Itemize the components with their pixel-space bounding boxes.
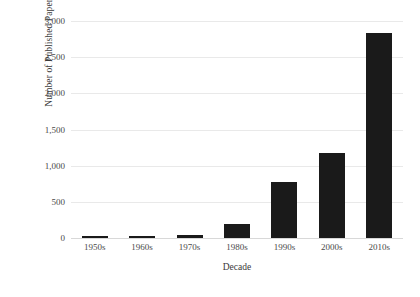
bar-group: 1990s — [261, 21, 308, 238]
bar-group: 1980s — [213, 21, 260, 238]
bar — [177, 235, 203, 238]
y-axis-tick-label: 3,000 — [45, 16, 65, 26]
plot-area: 05001,0001,5002,0002,5003,000 1950s1960s… — [71, 21, 403, 238]
bar-group: 2000s — [308, 21, 355, 238]
bar — [224, 224, 250, 238]
x-axis-tick-label: 1970s — [179, 242, 201, 252]
bar — [366, 33, 392, 238]
bar-group: 1960s — [118, 21, 165, 238]
y-axis-tick-label: 1,500 — [45, 125, 65, 135]
y-axis-tick-label: 500 — [52, 197, 66, 207]
bar-series: 1950s1960s1970s1980s1990s2000s2010s — [71, 21, 403, 238]
y-axis-tick-label: 2,500 — [45, 52, 65, 62]
bar-group: 1950s — [71, 21, 118, 238]
bar-chart-figure: Number of Published Papers 05001,0001,50… — [0, 0, 420, 297]
x-axis-tick-label: 2000s — [321, 242, 343, 252]
bar — [271, 182, 297, 238]
x-axis-tick-label: 1950s — [84, 242, 106, 252]
bar-group: 2010s — [356, 21, 403, 238]
bar — [82, 236, 108, 238]
x-axis-tick-label: 2010s — [369, 242, 391, 252]
x-axis-tick-label: 1980s — [226, 242, 248, 252]
gridline — [71, 238, 403, 239]
bar — [129, 236, 155, 238]
y-axis-tick-label: 1,000 — [45, 161, 65, 171]
y-axis-tick-label: 0 — [61, 233, 66, 243]
y-axis-tick-label: 2,000 — [45, 88, 65, 98]
x-axis-tick-label: 1990s — [274, 242, 296, 252]
bar-group: 1970s — [166, 21, 213, 238]
bar — [319, 153, 345, 238]
x-axis-title: Decade — [71, 262, 403, 272]
x-axis-tick-label: 1960s — [131, 242, 153, 252]
